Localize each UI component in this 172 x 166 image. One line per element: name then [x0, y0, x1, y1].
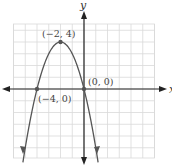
origin-point: [82, 87, 86, 91]
parabola-graph: x y (−2, 4) (−4, 0) (0, 0): [0, 0, 172, 166]
x-axis-label: x: [169, 83, 172, 96]
x-axis-right-arrow-icon: [159, 86, 167, 92]
vertex-point: [58, 40, 62, 44]
y-axis-label: y: [79, 0, 87, 12]
y-axis-down-arrow-icon: [81, 157, 87, 165]
curve-right-arrow-icon: [94, 146, 100, 154]
vertex-label: (−2, 4): [42, 28, 76, 39]
x-axis-left-arrow-icon: [2, 86, 10, 92]
left-root-label: (−4, 0): [38, 93, 72, 104]
left-root-point: [35, 87, 39, 91]
y-axis-up-arrow-icon: [81, 11, 87, 19]
origin-label: (0, 0): [88, 76, 114, 87]
